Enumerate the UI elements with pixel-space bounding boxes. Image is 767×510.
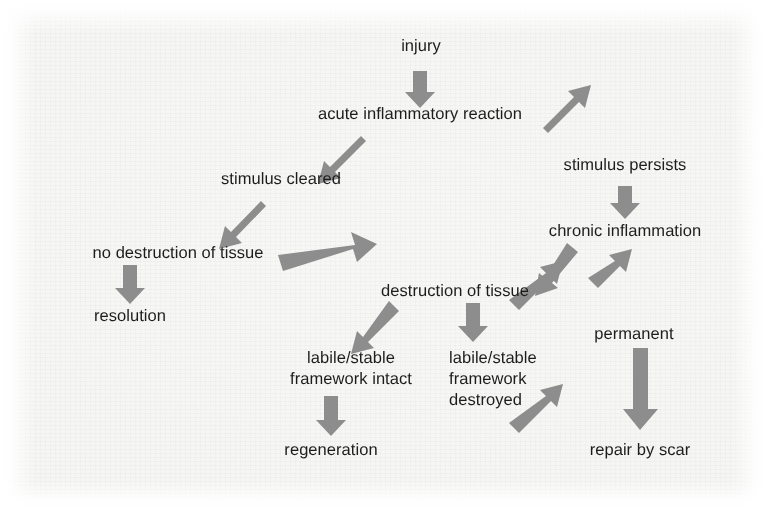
arrow-chronic-to-permanent — [588, 249, 632, 288]
node-permanent: permanent — [594, 324, 673, 345]
node-no-destruction-of-tissue: no destruction of tissue — [93, 243, 264, 264]
node-framework-destroyed: labile/stable framework destroyed — [449, 348, 537, 411]
node-repair-by-scar: repair by scar — [590, 440, 691, 461]
flowchart-figure: injury acute inflammatory reaction stimu… — [0, 0, 767, 510]
arrow-stimulus-persists-to-chronic — [610, 186, 640, 219]
node-stimulus-cleared: stimulus cleared — [221, 169, 341, 190]
node-chronic-inflammation: chronic inflammation — [549, 221, 701, 242]
node-destruction-of-tissue: destruction of tissue — [381, 281, 529, 302]
arrow-framework-intact-to-regeneration — [316, 396, 346, 436]
node-acute-inflammatory-reaction: acute inflammatory reaction — [318, 104, 522, 125]
arrow-stimulus-cleared-to-no-destruction — [219, 196, 266, 249]
arrow-destruction-to-framework-destroyed — [458, 303, 488, 342]
arrow-acute-to-stimulus-persists — [538, 85, 591, 133]
arrow-no-destruction-to-resolution — [115, 265, 145, 304]
arrow-permanent-to-repair — [623, 348, 658, 430]
node-resolution: resolution — [94, 306, 166, 327]
node-framework-intact: labile/stable framework intact — [290, 348, 412, 390]
arrow-destruction-to-framework-intact — [351, 301, 399, 354]
arrow-no-destruction-to-destruction — [278, 232, 377, 271]
node-regeneration: regeneration — [284, 440, 377, 461]
arrow-injury-to-acute — [405, 71, 435, 108]
node-stimulus-persists: stimulus persists — [564, 155, 687, 176]
node-injury: injury — [401, 36, 441, 57]
